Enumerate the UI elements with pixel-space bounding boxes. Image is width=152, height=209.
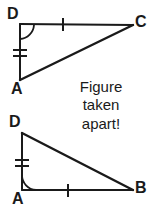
- segment-DB-lower: [22, 133, 133, 190]
- vertex-label-D-lower: D: [9, 114, 21, 130]
- annotation-line-3: apart!: [55, 115, 147, 133]
- segment-CA-upper: [20, 25, 133, 80]
- vertex-label-B-lower: B: [135, 180, 147, 196]
- annotation-line-1: Figure: [55, 78, 147, 96]
- geometry-figure: D C A D A B Figure taken apart!: [0, 0, 152, 209]
- lower-triangle-group: [15, 133, 133, 197]
- right-angle-arc-D-upper: [20, 25, 34, 39]
- upper-triangle-group: [13, 18, 133, 80]
- vertex-label-C-upper: C: [135, 14, 147, 30]
- right-angle-arc-A-lower: [22, 175, 36, 190]
- figure-annotation: Figure taken apart!: [55, 78, 147, 133]
- vertex-label-A-upper: A: [11, 81, 23, 97]
- vertex-label-D-upper: D: [7, 6, 19, 22]
- vertex-label-A-lower: A: [12, 191, 24, 207]
- annotation-line-2: taken: [55, 96, 147, 114]
- segment-DC-upper: [20, 24, 133, 25]
